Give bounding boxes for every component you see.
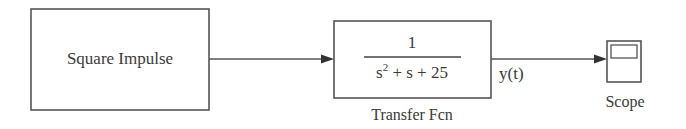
transfer-fcn-label: Transfer Fcn [371, 106, 453, 123]
scope-label: Scope [605, 93, 644, 111]
signal-label-yt: y(t) [499, 64, 524, 83]
denominator-rest: + s + 25 [388, 63, 448, 82]
transfer-fcn-block[interactable]: 1 s2 + s + 25 [334, 21, 491, 98]
scope-screen-icon [611, 45, 637, 58]
arrowhead-icon [594, 55, 607, 64]
scope-block[interactable] [607, 41, 641, 82]
block-diagram: Square Impulse 1 s2 + s + 25 Transfer Fc… [0, 0, 686, 129]
signal-wire-input[interactable] [209, 55, 334, 64]
denominator-s: s [376, 63, 383, 82]
square-impulse-block[interactable]: Square Impulse [31, 9, 209, 110]
arrowhead-icon [321, 55, 334, 64]
square-impulse-label: Square Impulse [67, 49, 173, 68]
numerator: 1 [408, 33, 417, 52]
signal-wire-output[interactable] [491, 55, 607, 64]
